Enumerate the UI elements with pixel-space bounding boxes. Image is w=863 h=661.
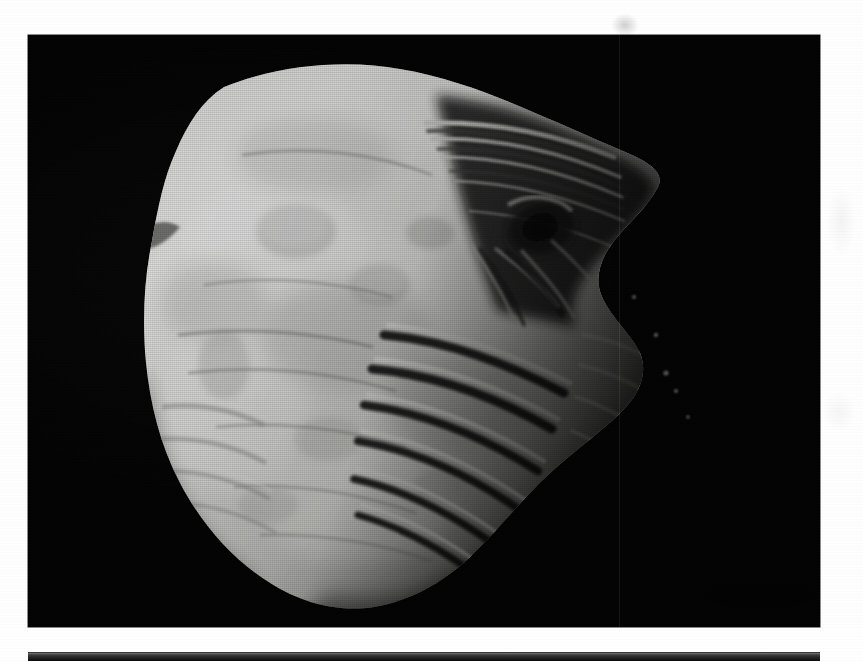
scan-smudge-top xyxy=(612,14,638,36)
next-figure-top-edge xyxy=(28,652,820,661)
asteroid-photograph-plate xyxy=(28,35,820,627)
scan-smudge-right-lower xyxy=(822,392,856,432)
asteroid-body xyxy=(28,35,820,627)
page-gutter xyxy=(0,628,863,652)
scanned-page xyxy=(0,0,863,661)
scan-smudge-right xyxy=(826,186,856,256)
plate-top-rule xyxy=(28,652,820,653)
asteroid-rendering xyxy=(28,35,820,627)
